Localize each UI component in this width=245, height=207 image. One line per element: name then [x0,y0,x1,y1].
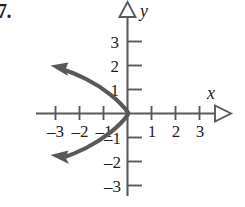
x-tick-label-3: 3 [196,122,205,141]
y-axis-arrowhead-icon [120,2,136,17]
x-tick-label--2: –2 [71,122,89,141]
graph-figure: 7. –3 –2 –1 1 2 3 3 2 1 –1 [0,0,245,207]
y-axis-label: y [138,1,148,21]
x-tick-label-2: 2 [172,122,181,141]
y-tick-label-3: 3 [111,33,120,52]
x-axis-arrowhead-icon [215,106,231,122]
x-tick-label-1: 1 [148,122,157,141]
y-tick-label-2: 2 [111,57,120,76]
x-axis-label: x [206,83,215,103]
coordinate-plane-svg: –3 –2 –1 1 2 3 3 2 1 –1 –2 –3 x y [0,0,245,207]
x-tick-label--3: –3 [46,122,64,141]
y-tick-label--3: –3 [103,177,121,196]
y-tick-label--2: –2 [103,153,121,172]
